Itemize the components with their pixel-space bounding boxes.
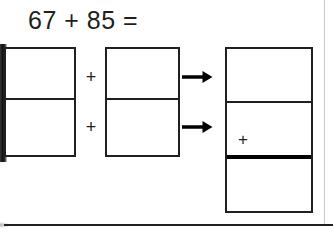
page-title: 67 + 85 = — [28, 4, 138, 36]
answer-box: + — [225, 47, 313, 213]
operands-cell-bottom[interactable] — [107, 98, 178, 155]
plus-connector-bottom: + — [84, 120, 98, 134]
addends-cell-top[interactable] — [6, 49, 74, 98]
answer-cell-middle-value: + — [238, 131, 248, 148]
plus-connector-top: + — [84, 70, 98, 84]
footer-rule — [4, 224, 333, 226]
arrow-right-icon-top — [182, 68, 213, 86]
operands-box — [105, 47, 180, 157]
answer-cell-top[interactable] — [227, 49, 311, 101]
margin-rule-right — [324, 0, 325, 224]
addends-box — [4, 47, 76, 157]
arrow-right-icon-bottom — [182, 118, 213, 136]
addends-cell-bottom[interactable] — [6, 98, 74, 155]
worksheet-page: 67 + 85 = + + — [0, 0, 333, 235]
answer-cell-middle[interactable]: + — [227, 101, 311, 155]
operands-cell-top[interactable] — [107, 49, 178, 98]
answer-cell-sum[interactable] — [227, 155, 311, 211]
